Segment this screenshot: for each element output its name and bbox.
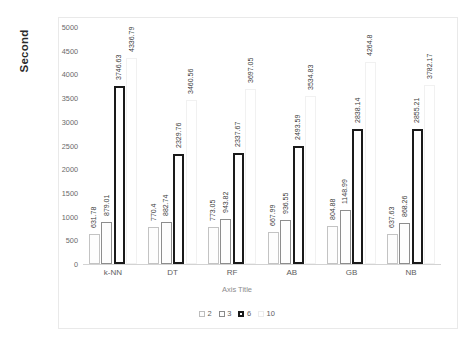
- bar-k-nn-series-2[interactable]: [89, 234, 100, 264]
- x-tick-label-k-nn: k-NN: [104, 268, 122, 277]
- bar-rf-series-3[interactable]: [220, 219, 231, 264]
- bar-value-label: 2329.76: [175, 122, 182, 147]
- bar-value-label: 631.78: [90, 207, 97, 228]
- bar-value-label: 804.88: [329, 198, 336, 219]
- x-tick-label-ab: AB: [286, 268, 297, 277]
- legend-item-2[interactable]: 2: [199, 309, 212, 318]
- x-tick-label-dt: DT: [167, 268, 178, 277]
- y-tick-label: 2000: [44, 165, 78, 174]
- bar-group: 637.63868.262855.213782.17: [387, 27, 436, 264]
- bar-value-label: 667.99: [269, 205, 276, 226]
- legend-swatch-2: [199, 311, 205, 317]
- bar-nb-series-10[interactable]: [424, 85, 435, 264]
- bar-value-label: 637.63: [389, 206, 396, 227]
- bar-gb-series-6[interactable]: [352, 129, 363, 264]
- legend-label: 2: [208, 309, 212, 318]
- y-tick-label: 4500: [44, 46, 78, 55]
- x-tick-label-rf: RF: [227, 268, 238, 277]
- y-tick-label: 3500: [44, 94, 78, 103]
- bar-dt-series-10[interactable]: [186, 100, 197, 264]
- bar-value-label: 943.82: [222, 192, 229, 213]
- legend-swatch-3: [219, 311, 225, 317]
- bar-value-label: 4336.79: [128, 27, 135, 52]
- chart-legend: 23610: [0, 309, 474, 318]
- bar-ab-series-6[interactable]: [293, 146, 304, 264]
- y-tick-label: 1000: [44, 212, 78, 221]
- bar-value-label: 936.55: [282, 192, 289, 213]
- y-tick-label: 0: [44, 260, 78, 269]
- bar-dt-series-2[interactable]: [148, 227, 159, 264]
- bar-nb-series-2[interactable]: [387, 234, 398, 264]
- bar-group: 770.4882.742329.763460.56: [148, 27, 197, 264]
- bar-k-nn-series-10[interactable]: [126, 58, 137, 264]
- plot-area: 631.78879.013746.634336.79770.4882.74232…: [83, 27, 441, 264]
- bar-value-label: 879.01: [103, 195, 110, 216]
- legend-swatch-6: [238, 311, 244, 317]
- bar-dt-series-3[interactable]: [161, 222, 172, 264]
- bar-group: 804.881148.992838.144264.8: [327, 27, 376, 264]
- legend-label: 3: [227, 309, 231, 318]
- bar-value-label: 1148.99: [341, 179, 348, 204]
- y-tick-label: 2500: [44, 141, 78, 150]
- bar-gb-series-3[interactable]: [340, 210, 351, 264]
- bar-dt-series-6[interactable]: [173, 154, 184, 264]
- bar-value-label: 3534.83: [307, 65, 314, 90]
- bar-group: 667.99936.552493.593534.83: [268, 27, 317, 264]
- bar-value-label: 4264.8: [366, 34, 373, 55]
- x-axis-title: Axis Title: [0, 285, 474, 294]
- bar-nb-series-6[interactable]: [412, 129, 423, 264]
- y-axis-title: Second: [18, 6, 34, 96]
- bar-value-label: 3460.56: [187, 69, 194, 94]
- bar-value-label: 882.74: [162, 195, 169, 216]
- x-tick-label-nb: NB: [406, 268, 417, 277]
- bar-k-nn-series-3[interactable]: [101, 222, 112, 264]
- y-tick-label: 500: [44, 236, 78, 245]
- bar-group: 773.05943.822337.673697.05: [208, 27, 257, 264]
- x-tick-label-gb: GB: [346, 268, 358, 277]
- y-tick-label: 3000: [44, 117, 78, 126]
- bar-ab-series-2[interactable]: [268, 232, 279, 264]
- legend-label: 6: [247, 309, 251, 318]
- bar-value-label: 3697.05: [247, 57, 254, 82]
- bar-value-label: 3782.17: [426, 53, 433, 78]
- bar-gb-series-2[interactable]: [327, 226, 338, 264]
- legend-swatch-10: [258, 311, 264, 317]
- bar-value-label: 773.05: [210, 200, 217, 221]
- bar-k-nn-series-6[interactable]: [114, 86, 125, 264]
- bar-value-label: 2855.21: [414, 97, 421, 122]
- bar-rf-series-2[interactable]: [208, 227, 219, 264]
- bar-ab-series-10[interactable]: [305, 96, 316, 264]
- legend-item-10[interactable]: 10: [258, 309, 275, 318]
- legend-item-3[interactable]: 3: [219, 309, 232, 318]
- bar-rf-series-10[interactable]: [245, 89, 256, 264]
- y-tick-label: 5000: [44, 23, 78, 32]
- legend-item-6[interactable]: 6: [238, 309, 251, 318]
- bar-nb-series-3[interactable]: [399, 223, 410, 264]
- y-tick-label: 1500: [44, 188, 78, 197]
- bar-value-label: 3746.63: [115, 55, 122, 80]
- y-axis-tick-labels: 5000450040003500300025002000150010005000: [44, 27, 78, 264]
- y-tick-label: 4000: [44, 70, 78, 79]
- legend-label: 10: [267, 309, 275, 318]
- bar-group: 631.78879.013746.634336.79: [89, 27, 138, 264]
- bar-value-label: 2337.67: [235, 122, 242, 147]
- bar-ab-series-3[interactable]: [280, 220, 291, 264]
- x-axis-line: [83, 264, 441, 265]
- bar-value-label: 2838.14: [354, 98, 361, 123]
- bar-rf-series-6[interactable]: [233, 153, 244, 264]
- bar-value-label: 2493.59: [294, 115, 301, 140]
- bar-value-label: 868.26: [401, 195, 408, 216]
- bar-value-label: 770.4: [150, 204, 157, 222]
- bar-gb-series-10[interactable]: [365, 62, 376, 264]
